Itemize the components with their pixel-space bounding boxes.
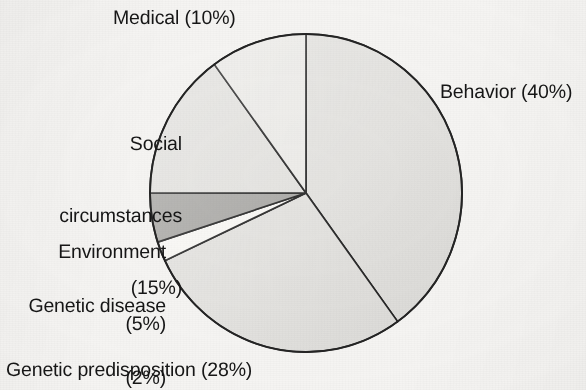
pie-label-social-line-1: Social <box>59 132 182 156</box>
pie-label-medical: Medical (10%) <box>113 6 236 30</box>
pie-chart-figure: Medical (10%) Behavior (40%) Social circ… <box>0 0 586 390</box>
pie-label-genetic-disease-line-1: Genetic disease <box>28 294 166 318</box>
pie-label-genetic-predisposition: Genetic predisposition (28%) <box>6 358 252 382</box>
pie-sheen-overlay <box>150 34 462 352</box>
pie-label-behavior: Behavior (40%) <box>440 80 572 104</box>
